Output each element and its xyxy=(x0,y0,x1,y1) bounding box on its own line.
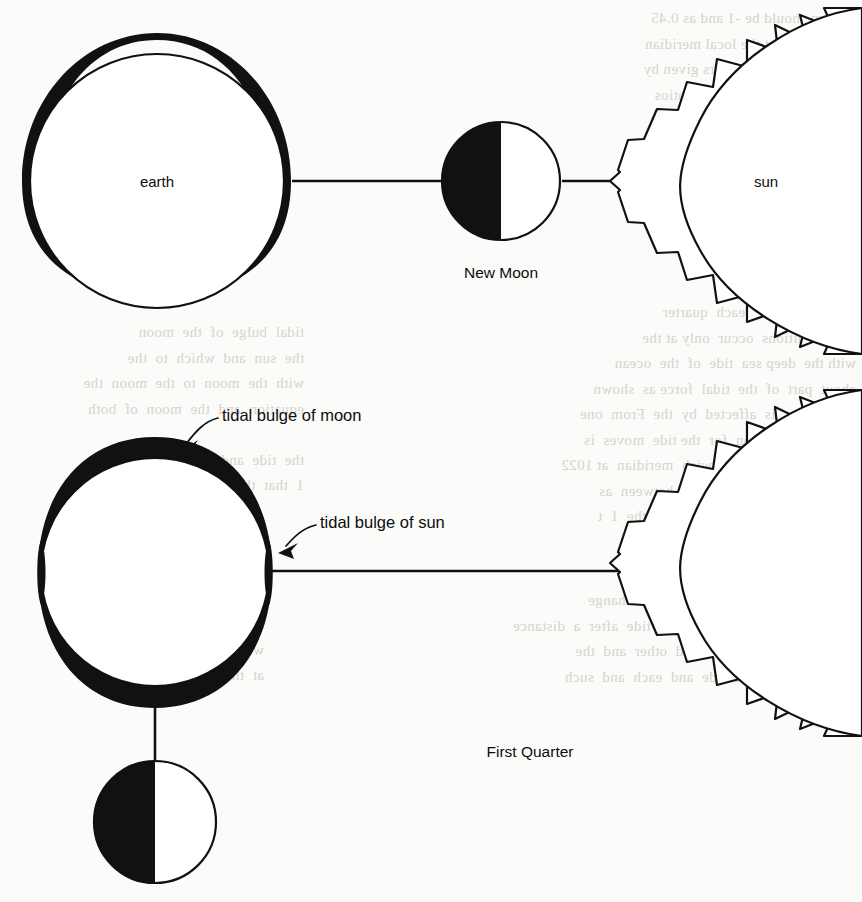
sun-top: sun xyxy=(610,8,862,354)
first-quarter-label: First Quarter xyxy=(487,743,574,760)
earth-sphere-bottom xyxy=(41,458,269,686)
tidal-bulge-of-sun-label: tidal bulge of sun xyxy=(320,513,445,531)
moon-dark-half-bottom xyxy=(94,761,155,883)
tidal-bulge-of-sun-arrowhead xyxy=(278,543,298,559)
tidal-bulge-of-moon-label: tidal bulge of moon xyxy=(222,406,361,424)
sun-disc-bottom xyxy=(680,390,862,736)
panel-new-moon: earth New Moon sun xyxy=(22,8,862,354)
new-moon-label: New Moon xyxy=(464,264,538,281)
callout-tidal-bulge-of-sun: tidal bulge of sun xyxy=(278,513,445,559)
callout-tidal-bulge-of-moon: tidal bulge of moon xyxy=(180,406,361,456)
tidal-bulge-diagram: earth New Moon sun xyxy=(0,0,862,902)
sun-bottom xyxy=(610,390,862,736)
earth-bottom xyxy=(37,437,273,708)
earth-label-top: earth xyxy=(140,173,174,190)
panel-first-quarter: tidal bulge of moon tidal bulge of sun xyxy=(37,390,862,883)
moon-first-quarter xyxy=(94,761,216,883)
earth-top: earth xyxy=(22,33,291,308)
figure-page: the sun should be -1 and as 0.45 is occu… xyxy=(0,0,862,902)
sun-label-top: sun xyxy=(754,173,778,190)
moon-new-moon: New Moon xyxy=(442,122,560,281)
moon-dark-half-top xyxy=(442,122,501,240)
